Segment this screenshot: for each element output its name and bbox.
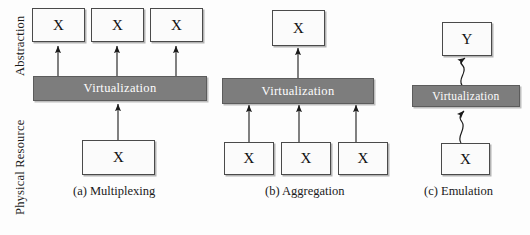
axis-label-abstraction: Abstraction bbox=[13, 15, 28, 76]
arrows-emulation-up bbox=[461, 58, 465, 85]
virtualization-bar: Virtualization bbox=[222, 78, 374, 104]
arrows-emulation-in bbox=[460, 111, 464, 143]
virtualization-concepts-figure: Abstraction Physical Resource X X X Virt… bbox=[0, 0, 530, 235]
resource-box: Y bbox=[442, 22, 492, 56]
resource-box: X bbox=[338, 142, 388, 175]
resource-box: X bbox=[224, 142, 274, 175]
resource-box: X bbox=[32, 8, 85, 42]
arrows-aggregation-in bbox=[249, 105, 356, 142]
resource-box: X bbox=[91, 8, 144, 42]
axis-label-physical-resource: Physical Resource bbox=[13, 120, 28, 215]
virtualization-bar: Virtualization bbox=[33, 76, 207, 101]
resource-box: X bbox=[150, 8, 203, 42]
resource-box: X bbox=[441, 143, 490, 175]
panel-caption: (a) Multiplexing bbox=[73, 184, 155, 199]
arrows-multiplexing-up bbox=[58, 46, 176, 76]
panel-caption: (c) Emulation bbox=[424, 184, 493, 199]
virtualization-bar: Virtualization bbox=[412, 85, 520, 107]
resource-box: X bbox=[82, 140, 155, 175]
resource-box: X bbox=[281, 142, 331, 175]
resource-box: X bbox=[272, 10, 325, 46]
panel-caption: (b) Aggregation bbox=[265, 184, 345, 199]
